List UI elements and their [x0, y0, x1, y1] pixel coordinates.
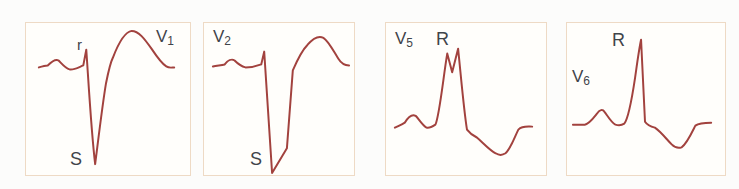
s-wave-label-v2: S: [250, 150, 262, 168]
lead-label-v1: V1: [156, 28, 174, 47]
lead-letter-v6: V: [572, 67, 583, 86]
lead-letter-v2: V: [213, 27, 224, 46]
ecg-panel-v5: V5 R: [385, 22, 547, 176]
ecg-panel-v2: V2 S: [203, 22, 355, 176]
lead-subscript-v5: 5: [406, 36, 413, 50]
ecg-waveform-v6: [573, 40, 711, 148]
ecg-panel-v1: r V1 S: [25, 22, 191, 176]
r-wave-label-v1: r: [77, 37, 82, 52]
ecg-waveform-v1: [39, 31, 174, 164]
lead-letter-v5: V: [395, 29, 406, 48]
lead-label-v6: V6: [572, 68, 590, 87]
lead-label-v5: V5: [395, 30, 413, 49]
lead-label-v2: V2: [213, 28, 231, 47]
ecg-trace-svg-v6: [567, 23, 725, 175]
lead-subscript-v2: 2: [224, 34, 231, 48]
lead-subscript-v1: 1: [167, 34, 174, 48]
lead-letter-v1: V: [156, 27, 167, 46]
ecg-panel-v6: R V6: [566, 22, 726, 176]
lead-subscript-v6: 6: [583, 74, 590, 88]
r-wave-label-v5: R: [436, 30, 449, 48]
ecg-lead-patterns-figure: r V1 S V2 S V5 R R V6: [0, 0, 739, 189]
ecg-waveform-v2: [213, 37, 349, 173]
ecg-waveform-v5: [395, 49, 532, 155]
r-wave-label-v6: R: [612, 31, 625, 49]
s-wave-label-v1: S: [70, 150, 82, 168]
